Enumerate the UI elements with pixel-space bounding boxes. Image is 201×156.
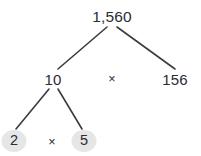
edge-10-to-5 [58, 89, 82, 129]
node-factor-156: 156 [162, 72, 187, 87]
node-prime-5-label: 5 [80, 133, 88, 148]
multiply-operator-bottom: × [48, 136, 55, 149]
edge-10-to-2 [16, 89, 49, 129]
node-root-1560: 1,560 [92, 9, 131, 25]
node-prime-2: 2 [2, 130, 27, 152]
factor-tree-diagram: 1,560 10 × 156 2 × 5 [0, 0, 201, 156]
node-factor-10: 10 [45, 72, 62, 87]
node-prime-5: 5 [72, 130, 97, 152]
multiply-operator-middle: × [108, 73, 115, 86]
edge-root-to-10 [58, 27, 107, 69]
edge-root-to-156 [117, 27, 175, 69]
node-prime-2-label: 2 [10, 133, 18, 148]
